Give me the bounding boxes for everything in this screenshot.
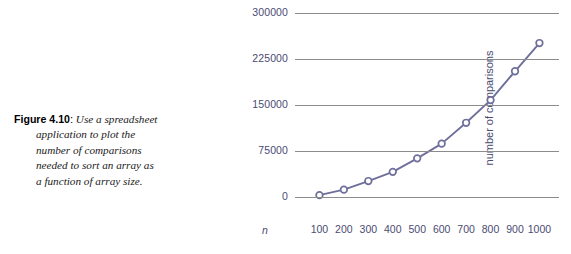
gridline: [295, 59, 559, 60]
gridline: [295, 197, 559, 198]
x-axis-tick-label: 100: [311, 223, 329, 235]
x-axis-tick-label: 400: [384, 223, 402, 235]
x-axis-title: n: [262, 224, 268, 236]
data-point-marker: [414, 155, 421, 162]
data-point-marker: [365, 178, 372, 185]
caption-text-line: Use a spreadsheet: [76, 113, 158, 125]
x-axis-tick-label: 500: [408, 223, 426, 235]
x-axis-tick-label: 300: [360, 223, 378, 235]
x-axis-tick-labels: 1002003004005006007008009001000: [295, 223, 565, 237]
caption-text-line: number of comparisons: [36, 144, 142, 156]
series-polyline: [319, 43, 539, 195]
data-point-marker: [512, 68, 519, 75]
y-axis-tick-label: 150000: [252, 98, 288, 110]
data-point-marker: [463, 119, 470, 126]
caption-line-4: needed to sort an array as: [36, 158, 210, 173]
y-axis-tick-label: 225000: [252, 52, 288, 64]
caption-line-3: number of comparisons: [36, 143, 210, 158]
x-axis-tick-label: 200: [335, 223, 353, 235]
figure-caption: Figure 4.10: Use a spreadsheet applicati…: [14, 112, 210, 189]
caption-colon: :: [70, 113, 73, 125]
x-axis-tick-label: 600: [433, 223, 451, 235]
data-point-marker: [536, 40, 543, 47]
data-point-marker: [438, 140, 445, 147]
y-axis-tick-label: 0: [282, 190, 288, 202]
caption-line-2: application to plot the: [36, 127, 210, 142]
caption-text-line: needed to sort an array as: [36, 159, 154, 171]
figure-container: Figure 4.10: Use a spreadsheet applicati…: [0, 0, 571, 254]
data-point-marker: [487, 97, 494, 104]
figure-number-label: Figure 4.10: [14, 113, 70, 125]
y-axis-tick-labels: 075000150000225000300000: [214, 0, 288, 254]
gridline: [295, 151, 559, 152]
x-axis-tick-label: 900: [506, 223, 524, 235]
plot-area: [295, 13, 559, 197]
caption-text-line: application to plot the: [36, 128, 135, 140]
x-axis-tick-label: 700: [457, 223, 475, 235]
line-chart: number of comparisons 075000150000225000…: [214, 0, 571, 254]
caption-text-line: a function of array size.: [36, 175, 143, 187]
data-point-marker: [389, 169, 396, 176]
x-axis-tick-label: 1000: [528, 223, 551, 235]
caption-line-5: a function of array size.: [36, 174, 210, 189]
x-axis-tick-label: 800: [482, 223, 500, 235]
y-axis-tick-label: 300000: [252, 6, 288, 18]
caption-line-1: Figure 4.10: Use a spreadsheet: [14, 112, 210, 127]
gridline: [295, 13, 559, 14]
series-markers: [316, 40, 543, 199]
gridline: [295, 105, 559, 106]
data-point-marker: [341, 186, 348, 193]
y-axis-tick-label: 75000: [258, 144, 288, 156]
